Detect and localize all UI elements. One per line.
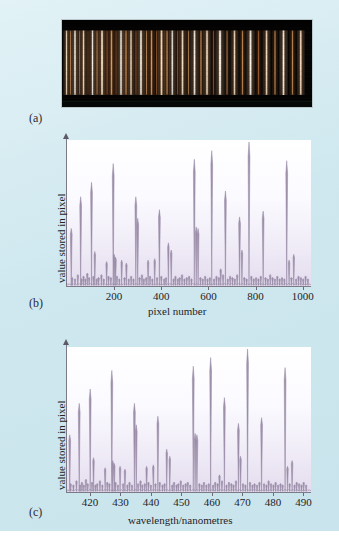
spectral-peak — [115, 257, 117, 285]
spectral-peak — [284, 368, 286, 492]
spectral-peak — [168, 243, 170, 286]
x-axis-title-c: wavelength/nanometres — [128, 514, 232, 526]
spectrum-photograph — [61, 19, 313, 108]
spectral-peak — [286, 161, 288, 286]
x-axis-title-b: pixel number — [148, 305, 206, 317]
spectral-peak — [287, 466, 289, 491]
spectral-peak — [106, 262, 108, 286]
spectral-peak — [89, 389, 91, 491]
x-tick-label: 800 — [247, 290, 264, 302]
spectral-peak — [146, 466, 148, 491]
spectral-peak — [238, 423, 240, 491]
x-tick-label: 200 — [106, 290, 123, 302]
spectral-peak — [139, 277, 141, 285]
x-tick-label: 470 — [234, 496, 251, 508]
spectral-peak — [177, 279, 179, 286]
spectral-peak — [126, 263, 128, 286]
spectral-peak — [262, 211, 264, 285]
spectrum-trace-c — [67, 347, 311, 492]
spectral-peak — [135, 197, 137, 286]
x-tick-label: 420 — [82, 496, 99, 508]
spectral-peak — [70, 228, 72, 285]
spectral-peak — [169, 456, 171, 491]
spectral-peak — [170, 250, 172, 286]
spectral-peak — [104, 468, 106, 492]
y-axis-title-b: value stored in pixel — [55, 193, 67, 283]
spectral-peak — [227, 279, 229, 286]
spectral-peak — [220, 269, 222, 286]
spectral-peak — [119, 466, 121, 491]
spectral-peak — [240, 456, 242, 491]
x-tick-label: 450 — [173, 496, 190, 508]
spectral-peak — [112, 461, 114, 492]
x-tick-label: 400 — [153, 290, 170, 302]
spectral-peak — [154, 259, 156, 286]
spectral-peak — [291, 461, 293, 492]
spectral-peak — [196, 435, 198, 492]
plot-area-b — [67, 140, 311, 286]
spectral-peak — [93, 458, 95, 492]
spectral-peak — [135, 425, 137, 492]
x-tick-label: 460 — [204, 496, 221, 508]
spectral-peak — [147, 260, 149, 285]
y-axis-title-c: value stored in pixel — [55, 400, 67, 490]
panel-label-a: (a) — [29, 111, 42, 126]
spectral-peak — [153, 465, 155, 492]
spectral-peak — [134, 403, 136, 491]
spectral-peak — [225, 191, 227, 286]
panel-label-c: (c) — [29, 505, 42, 520]
spectrum-trace-b — [67, 140, 311, 286]
spectral-peak — [197, 228, 199, 285]
spectral-peak — [94, 251, 96, 285]
spectral-peak — [192, 366, 194, 491]
spectral-peak — [247, 349, 249, 492]
spectral-peak — [137, 218, 139, 285]
spectral-peak — [124, 469, 126, 491]
spectral-peak — [159, 210, 161, 286]
spectral-peak — [91, 182, 93, 285]
spectral-peak — [78, 403, 80, 491]
spectral-peak — [81, 279, 83, 286]
spectral-peak — [143, 279, 145, 286]
spectral-peak — [239, 217, 241, 286]
spectral-peak — [113, 254, 115, 285]
x-tick-label: 490 — [295, 496, 312, 508]
spectral-peak — [223, 398, 225, 492]
spectral-peak — [193, 159, 195, 285]
spectral-peak — [211, 151, 213, 286]
spectral-peak — [288, 260, 290, 285]
spectral-peak — [80, 197, 82, 286]
panel-label-b: (b) — [29, 296, 43, 311]
spectral-peak — [293, 254, 295, 285]
spectral-peak — [131, 485, 133, 492]
spectral-peak — [185, 483, 187, 491]
x-tick-label: 1000 — [292, 290, 314, 302]
x-tick-label: 600 — [200, 290, 217, 302]
plot-area-c — [67, 347, 311, 492]
spectral-peak — [194, 433, 196, 491]
y-axis-arrow-c — [63, 339, 69, 345]
spectral-peak — [121, 260, 123, 285]
spectral-peak — [219, 475, 221, 492]
spectrum-image-canvas — [62, 20, 312, 107]
x-tick-label: 430 — [112, 496, 129, 508]
spectral-peak — [114, 463, 116, 491]
spectral-peak — [241, 250, 243, 286]
spectral-peak — [210, 358, 212, 492]
y-axis-arrow-b — [63, 133, 69, 139]
spectral-peak — [166, 449, 168, 491]
spectral-peak — [261, 418, 263, 492]
spectral-peak — [157, 416, 159, 491]
x-axis-c — [67, 492, 311, 493]
x-axis-b — [67, 286, 311, 287]
x-tick-label: 440 — [143, 496, 160, 508]
x-tick-label: 480 — [265, 496, 282, 508]
spectral-peak — [195, 227, 197, 286]
spectral-peak — [277, 485, 279, 492]
spectral-peak — [273, 485, 275, 492]
spectral-peak — [248, 142, 250, 286]
spectral-peak — [69, 435, 71, 492]
figure-root: (a) 2004006008001000 value stored in pix… — [0, 0, 339, 531]
